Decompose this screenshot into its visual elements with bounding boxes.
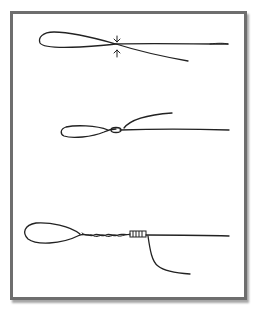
knot-diagram <box>0 0 254 313</box>
step-2-drawing <box>61 113 229 137</box>
barrel-wrap-icon <box>130 231 146 237</box>
step-3-drawing <box>25 223 229 274</box>
arrow-up-icon <box>114 50 120 57</box>
illustration-frame: Line doubled to form loop; crossing poin… <box>10 11 247 300</box>
arrow-down-icon <box>114 36 120 42</box>
step-1-drawing <box>40 32 228 61</box>
